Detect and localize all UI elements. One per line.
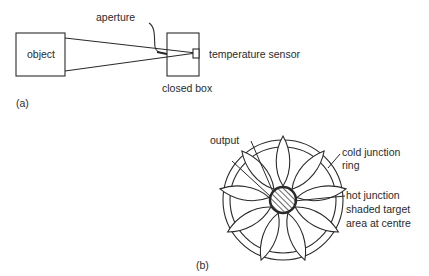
hot-junction-label: hot junction [346,189,400,201]
aperture-label: aperture [96,11,135,23]
ray-lower [65,53,196,71]
closed-box-label: closed box [162,82,212,94]
caption-a: (a) [16,97,29,109]
caption-b: (b) [196,259,209,271]
object-label: object [27,48,55,60]
cold-ring-pointer [328,154,340,168]
temperature-sensor-label: temperature sensor [209,48,300,60]
temperature-sensor [193,49,199,58]
ray-upper [65,38,196,53]
output-label: output [210,134,239,146]
cold-junction-label-2: ring [342,159,360,171]
thermopile [219,136,347,262]
hot-junction-target [270,187,296,213]
cold-junction-label-1: cold junction [342,146,400,158]
shaded-target-label-2: area at centre [346,217,411,229]
aperture-gap [157,52,167,54]
shaded-target-label-1: shaded target [346,203,410,215]
